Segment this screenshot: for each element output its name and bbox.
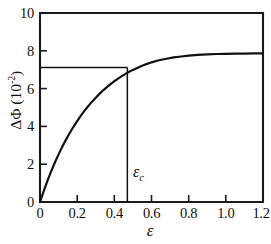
x-tick-label-1-2: 1.2 — [247, 206, 271, 221]
x-axis-label: ε — [120, 222, 180, 239]
y-axis-label-main: ΔΦ (10 — [7, 84, 24, 130]
y-tick-label-2: 2 — [8, 157, 34, 172]
y-axis-label-close: ) — [7, 71, 24, 76]
x-tick-label-0: 0 — [26, 206, 54, 221]
y-axis-label-exponent: -2 — [6, 76, 17, 84]
y-tick-label-10: 10 — [8, 6, 34, 21]
data-curve — [40, 53, 263, 202]
x-tick-label-0-2: 0.2 — [63, 206, 91, 221]
x-tick-label-0-6: 0.6 — [138, 206, 166, 221]
critical-strain-subscript: c — [139, 172, 144, 183]
x-tick-label-0-4: 0.4 — [100, 206, 128, 221]
critical-strain-label: εc — [133, 164, 144, 184]
chart-figure: 0 2 4 6 8 10 0 0.2 0.4 0.6 0.8 1.0 1.2 Δ… — [0, 0, 271, 244]
y-axis-label: ΔΦ (10-2) — [7, 54, 24, 146]
x-tick-label-0-8: 0.8 — [175, 206, 203, 221]
x-tick-label-1-0: 1.0 — [212, 206, 240, 221]
axis-frame — [40, 13, 263, 202]
